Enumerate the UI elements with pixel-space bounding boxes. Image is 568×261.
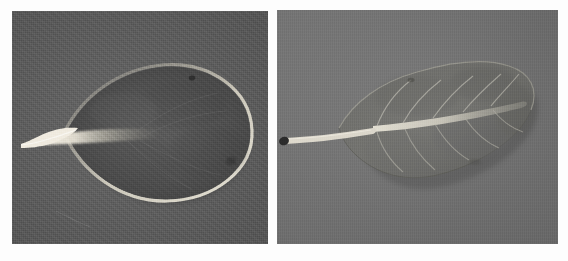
right-leaf-illustration [277, 10, 558, 244]
left-leaf-illustration [12, 11, 268, 244]
leaf-specimen-figure [0, 0, 568, 261]
left-leaf-subject [12, 11, 268, 244]
backdrop-scratch [56, 211, 90, 227]
right-leaf-blemish-2 [469, 159, 481, 165]
right-leaf-photograph [277, 10, 558, 244]
left-leaf-photograph [12, 11, 268, 244]
right-leaf-petiole-tip [278, 135, 290, 146]
right-leaf-blemish [408, 78, 415, 82]
right-leaf-subject [277, 10, 558, 244]
left-leaf-blemish [189, 76, 195, 81]
left-leaf-blemish-2 [226, 157, 236, 165]
